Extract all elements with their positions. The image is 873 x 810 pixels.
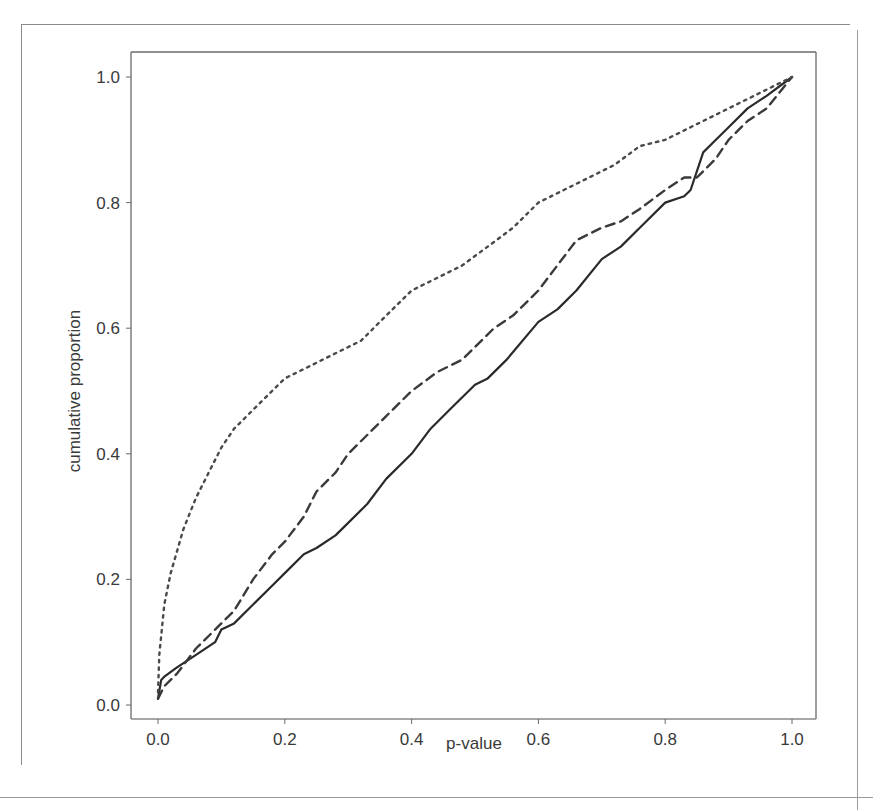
y-tick-label: 0.6 xyxy=(96,319,120,338)
y-axis-label: cumulative proportion xyxy=(65,310,84,473)
x-tick-label: 0.2 xyxy=(273,730,297,749)
y-tick-label: 0.8 xyxy=(96,194,120,213)
series-line-solid xyxy=(158,77,792,699)
y-axis-ticks: 0.00.20.40.60.81.0 xyxy=(96,68,131,715)
data-series xyxy=(158,77,792,699)
x-tick-label: 0.4 xyxy=(400,730,424,749)
y-tick-label: 1.0 xyxy=(96,68,120,87)
y-tick-label: 0.0 xyxy=(96,696,120,715)
x-tick-label: 1.0 xyxy=(780,730,804,749)
x-axis-label: p-value xyxy=(446,734,502,753)
x-tick-label: 0.0 xyxy=(146,730,170,749)
y-tick-label: 0.4 xyxy=(96,445,120,464)
y-tick-label: 0.2 xyxy=(96,570,120,589)
x-tick-label: 0.8 xyxy=(653,730,677,749)
x-tick-label: 0.6 xyxy=(527,730,551,749)
